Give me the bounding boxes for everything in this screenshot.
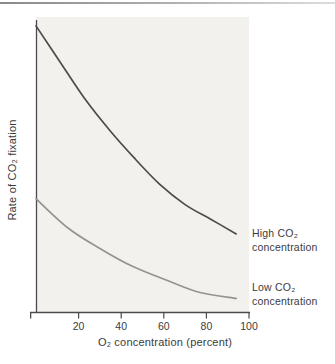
y-axis-label: Rate of CO₂ fixation [6, 110, 20, 230]
series-label-high-co2-line1: High CO₂ [252, 227, 318, 241]
x-tick-label-60: 60 [158, 320, 170, 332]
series-label-low-co2: Low CO₂ concentration [252, 281, 318, 308]
chart-canvas: 20406080100 [0, 0, 335, 364]
figure-o2-effect-on-co2-fixation: 20406080100 Rate of CO₂ fixation O₂ conc… [0, 0, 335, 364]
series-label-high-co2-line2: concentration [252, 241, 318, 255]
x-tick-label-80: 80 [201, 320, 213, 332]
series-label-low-co2-line2: concentration [252, 295, 318, 309]
x-axis [30, 313, 250, 319]
x-tick-label-100: 100 [240, 320, 258, 332]
x-tick-label-20: 20 [73, 320, 85, 332]
x-axis-label: O₂ concentration (percent) [80, 336, 250, 348]
x-tick-label-40: 40 [115, 320, 127, 332]
series-label-high-co2: High CO₂ concentration [252, 227, 318, 254]
series-label-low-co2-line1: Low CO₂ [252, 281, 318, 295]
plot-area [36, 17, 249, 313]
